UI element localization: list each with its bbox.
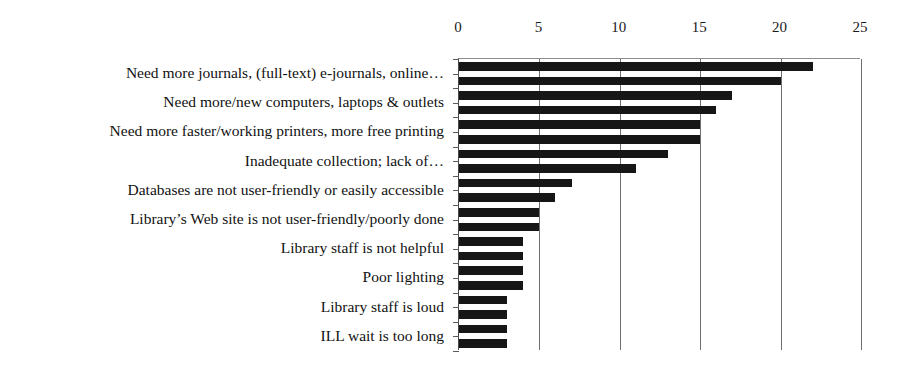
category-label: Need more/new computers, laptops & outle… [163, 87, 444, 116]
bar-row [459, 74, 781, 89]
x-tick-label-10: 10 [611, 18, 626, 36]
bar [459, 193, 555, 202]
category-labels: Need more journals, (full-text) e-journa… [0, 58, 452, 350]
plot-area [458, 58, 860, 350]
y-axis-tick [453, 351, 459, 352]
x-tick-label-20: 20 [772, 18, 787, 36]
bar [459, 252, 523, 261]
bar-row [459, 293, 507, 308]
bar [459, 237, 523, 246]
bar-row [459, 249, 523, 264]
bar [459, 91, 732, 100]
category-label: Need more journals, (full-text) e-journa… [126, 58, 444, 87]
category-label: Databases are not user-friendly or easil… [128, 175, 444, 204]
bar-row [459, 88, 732, 103]
bar [459, 150, 668, 159]
bar-row [459, 147, 668, 162]
x-tick-label-25: 25 [853, 18, 868, 36]
bar [459, 223, 539, 232]
bar-row [459, 132, 700, 147]
bar-row [459, 190, 555, 205]
bar [459, 266, 523, 275]
bar-row [459, 220, 539, 235]
bar [459, 120, 700, 129]
bar [459, 179, 572, 188]
category-label: Library staff is loud [321, 292, 444, 321]
x-axis-tick-labels: 0510152025 [0, 18, 898, 42]
bar [459, 135, 700, 144]
bar-row [459, 263, 523, 278]
bar [459, 310, 507, 319]
category-label: Poor lighting [363, 262, 444, 291]
gridline [861, 59, 862, 350]
bar-row [459, 161, 636, 176]
category-label: Library’s Web site is not user-friendly/… [130, 204, 444, 233]
x-tick-label-15: 15 [692, 18, 707, 36]
bar [459, 339, 507, 348]
bar [459, 281, 523, 290]
category-label: ILL wait is too long [321, 321, 444, 350]
bar-row [459, 117, 700, 132]
category-label: Inadequate collection; lack of… [245, 146, 444, 175]
category-label: Library staff is not helpful [281, 233, 444, 262]
x-tick-label-0: 0 [454, 18, 462, 36]
category-label: Need more faster/working printers, more … [110, 116, 444, 145]
bar [459, 325, 507, 334]
bar-chart: 0510152025 Need more journals, (full-tex… [0, 0, 898, 385]
bar-row [459, 307, 507, 322]
bar-row [459, 59, 813, 74]
bar-row [459, 322, 507, 337]
bar-row [459, 176, 572, 191]
bar [459, 164, 636, 173]
bar [459, 208, 539, 217]
bar-row [459, 234, 523, 249]
bar [459, 296, 507, 305]
bar-row [459, 205, 539, 220]
bar [459, 106, 716, 115]
bar-row [459, 278, 523, 293]
bar [459, 62, 813, 71]
bar-row [459, 103, 716, 118]
bar [459, 77, 781, 86]
x-tick-label-5: 5 [535, 18, 543, 36]
bar-row [459, 336, 507, 351]
gridline [781, 59, 782, 350]
